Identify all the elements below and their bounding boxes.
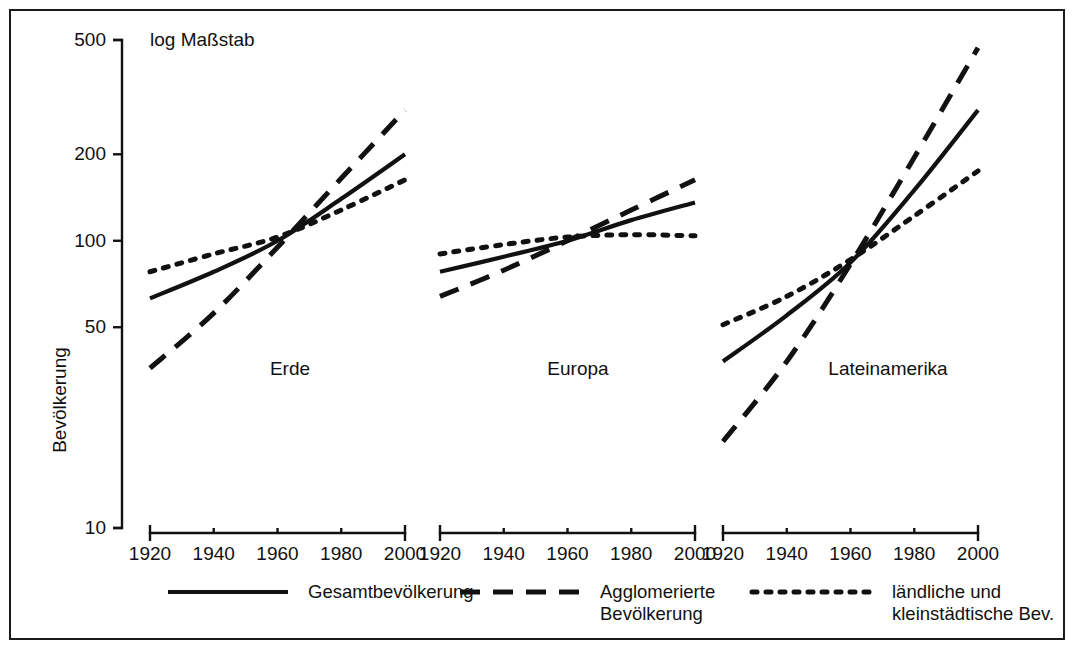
x-axis-tick-label: 1980 — [320, 543, 362, 564]
x-axis-tick-label: 1960 — [546, 543, 588, 564]
series-line-dashed — [723, 48, 978, 442]
x-axis-tick-label: 1920 — [419, 543, 461, 564]
y-axis-tick-label: 50 — [85, 316, 106, 337]
chart-legend: GesamtbevölkerungAgglomerierteBevölkerun… — [168, 581, 1054, 624]
series-line-solid — [723, 110, 978, 361]
x-axis-tick-label: 1940 — [766, 543, 808, 564]
x-axis-tick-label: 1980 — [893, 543, 935, 564]
panel-label: Lateinamerika — [828, 358, 948, 379]
x-axis-tick-label: 1960 — [256, 543, 298, 564]
x-axis-tick-label: 1940 — [483, 543, 525, 564]
legend-label: Bevölkerung — [600, 603, 703, 624]
chart-panel: 19201940196019802000Europa — [419, 180, 716, 564]
x-axis-tick-label: 1980 — [610, 543, 652, 564]
panel-label: Erde — [270, 358, 310, 379]
y-axis-tick-label: 10 — [85, 517, 106, 538]
y-axis-tick-label: 100 — [74, 230, 106, 251]
log-scale-note: log Maßstab — [150, 29, 255, 50]
series-line-dotted — [150, 180, 405, 272]
legend-label: kleinstädtische Bev. — [892, 603, 1054, 624]
x-axis-tick-label: 1920 — [702, 543, 744, 564]
y-axis-tick-label: 500 — [74, 29, 106, 50]
series-line-solid — [150, 154, 405, 298]
x-axis-tick-label: 2000 — [957, 543, 999, 564]
y-axis-tick-label: 200 — [74, 143, 106, 164]
x-axis-tick-label: 1940 — [193, 543, 235, 564]
series-line-dotted — [723, 171, 978, 325]
legend-label: Gesamtbevölkerung — [308, 581, 474, 602]
y-axis-title: Bevölkerung — [49, 347, 70, 453]
x-axis-tick-label: 1960 — [829, 543, 871, 564]
legend-label: ländliche und — [892, 581, 1001, 602]
chart-panel: 19201940196019802000Erde — [129, 110, 426, 564]
population-chart: 5002001005010Bevölkerunglog Maßstab19201… — [0, 0, 1074, 649]
series-line-dotted — [440, 235, 695, 254]
figure-root: 5002001005010Bevölkerunglog Maßstab19201… — [0, 0, 1074, 649]
legend-label: Agglomerierte — [600, 581, 715, 602]
panel-label: Europa — [547, 358, 609, 379]
chart-panel: 19201940196019802000Lateinamerika — [702, 48, 999, 564]
x-axis-tick-label: 1920 — [129, 543, 171, 564]
